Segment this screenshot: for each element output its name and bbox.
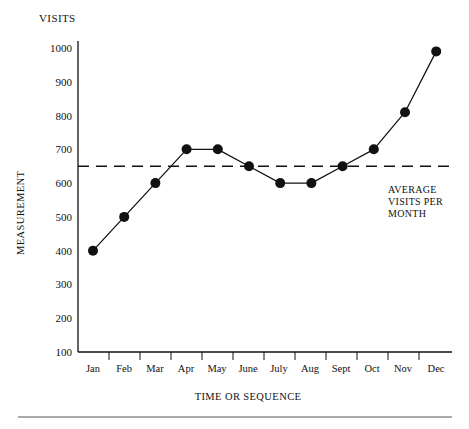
- y-tick-label: 700: [56, 143, 73, 155]
- line-chart-svg: VISITS MEASUREMENT 1000 900 800 700 600 …: [0, 0, 469, 429]
- data-point: [338, 161, 348, 171]
- data-point: [182, 144, 192, 154]
- chart-title: VISITS: [39, 12, 76, 24]
- average-annotation: AVERAGE VISITS PER MONTH: [388, 184, 443, 219]
- x-axis-title: TIME OR SEQUENCE: [195, 391, 302, 402]
- y-tick-label: 900: [56, 76, 73, 88]
- x-tick-label: Jan: [86, 363, 101, 374]
- data-point: [306, 178, 316, 188]
- y-axis-tick-labels: 1000 900 800 700 600 500 400 300 200 100: [50, 42, 73, 358]
- y-tick-label: 300: [56, 278, 73, 290]
- y-tick-label: 100: [56, 346, 73, 358]
- data-point: [119, 212, 129, 222]
- chart-figure: VISITS MEASUREMENT 1000 900 800 700 600 …: [0, 0, 469, 429]
- data-point: [400, 107, 410, 117]
- x-tick-label: June: [238, 363, 258, 374]
- data-point: [244, 161, 254, 171]
- average-annotation-line-3: MONTH: [388, 208, 426, 219]
- visits-series-points: [88, 46, 441, 255]
- x-tick-label: May: [207, 363, 227, 374]
- data-point: [369, 144, 379, 154]
- x-tick-label: Nov: [394, 363, 413, 374]
- y-tick-label: 600: [56, 177, 73, 189]
- data-point: [213, 144, 223, 154]
- x-tick-label: Apr: [178, 363, 195, 374]
- x-tick-label: Mar: [146, 363, 164, 374]
- data-point: [150, 178, 160, 188]
- y-tick-label: 800: [56, 110, 73, 122]
- average-annotation-line-2: VISITS PER: [388, 196, 443, 207]
- y-tick-label: 500: [56, 211, 73, 223]
- y-tick-label: 1000: [50, 42, 73, 54]
- x-tick-label: Aug: [301, 363, 320, 374]
- x-tick-label: Oct: [364, 363, 379, 374]
- data-point: [88, 246, 98, 256]
- x-tick-label: July: [270, 363, 288, 374]
- y-tick-label: 200: [56, 312, 73, 324]
- y-tick-label: 400: [56, 245, 73, 257]
- y-axis-title: MEASUREMENT: [15, 170, 26, 255]
- x-axis-tick-marks: [109, 352, 419, 360]
- x-tick-label: Dec: [428, 363, 445, 374]
- data-point: [275, 178, 285, 188]
- visits-series-line: [93, 51, 436, 250]
- x-tick-label: Feb: [116, 363, 132, 374]
- data-point: [431, 46, 441, 56]
- average-annotation-line-1: AVERAGE: [388, 184, 437, 195]
- x-axis-tick-labels: Jan Feb Mar Apr May June July Aug Sept O…: [86, 363, 445, 374]
- x-tick-label: Sept: [332, 363, 351, 374]
